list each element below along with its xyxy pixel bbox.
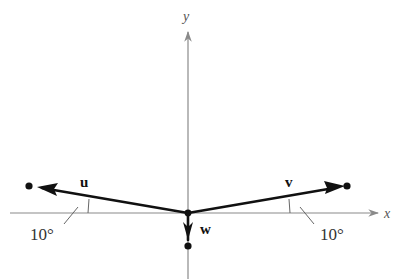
vector-v-label: v [285,174,293,190]
angle-marker-right [289,199,314,224]
angle-marker-left [64,199,89,224]
vector-w-label: w [200,221,211,237]
endpoint-u [25,182,32,189]
y-axis-label: y [181,9,190,24]
x-axis-label: x [383,206,391,221]
arrowhead-v-icon [324,181,345,194]
vector-w [183,210,193,250]
vector-v [188,181,351,213]
angle-label-right: 10° [320,225,344,244]
angle-label-left: 10° [30,225,54,244]
vector-u [25,182,188,213]
origin-point [185,210,192,217]
endpoint-w [184,242,191,249]
vector-diagram: x y u v w 10° 10° [0,0,393,279]
vector-u-label: u [80,174,88,190]
endpoint-v [343,182,350,189]
